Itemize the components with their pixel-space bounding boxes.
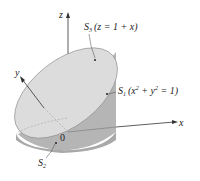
s1-marker (106, 93, 108, 95)
s2-marker (55, 142, 57, 144)
x-axis (116, 122, 174, 127)
z-axis-label: z (58, 9, 63, 20)
x-axis-arrow-icon (172, 120, 178, 124)
s3-label: S3(z = 1 + x) (84, 21, 138, 33)
s3-marker (94, 59, 96, 61)
s1-label: S1(x2 + y2 = 1) (118, 85, 179, 97)
s2-label: S2 (38, 157, 46, 169)
solid-diagram: z y x 0 S3(z = 1 + x) S1(x2 + y2 = 1) S2 (0, 0, 200, 181)
z-axis-arrow-icon (66, 12, 70, 18)
y-axis-label: y (14, 67, 20, 78)
origin-label: 0 (60, 132, 65, 143)
x-axis-label: x (178, 117, 184, 128)
